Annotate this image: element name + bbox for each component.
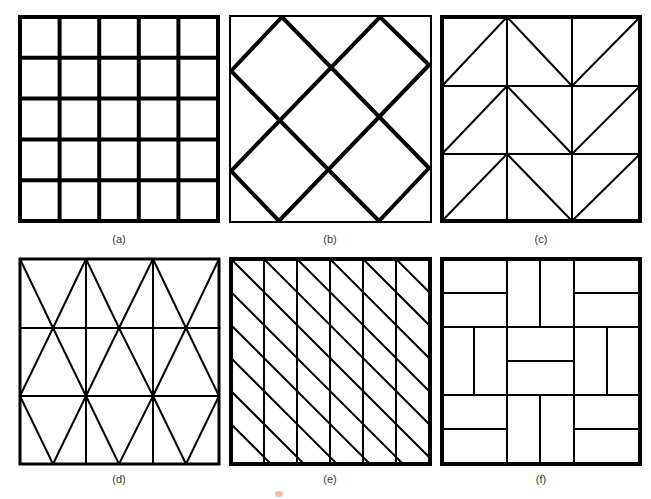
watermark-logo-icon [275,491,283,497]
caption-a: (a) [99,233,139,245]
caption-c: (c) [521,233,561,245]
watermark [275,490,385,498]
panel-f-basketweave [440,257,642,466]
chevron-grid-diagram [440,15,642,223]
caption-e: (e) [310,473,350,485]
caption-b: (b) [310,233,350,245]
panel-d-triangle-grid [18,257,221,466]
caption-f: (f) [521,473,561,485]
panel-e-parallel-diagonals [229,257,432,466]
panel-a-square-grid [18,15,220,223]
panel-c-chevron-grid [440,15,642,223]
square-grid-diagram [18,15,220,223]
basketweave-diagram [440,257,642,466]
diamond-lattice-diagram [229,15,432,223]
triangle-grid-diagram [18,257,221,466]
panel-b-diamond-lattice [229,15,432,223]
parallel-diagonals-diagram [229,257,432,466]
caption-d: (d) [99,473,139,485]
